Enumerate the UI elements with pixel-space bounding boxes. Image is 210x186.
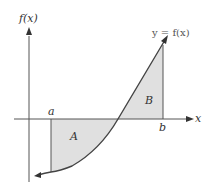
point-a-label: a (48, 105, 55, 118)
point-b-label: b (159, 121, 166, 134)
x-axis-arrow-icon (186, 116, 194, 122)
x-axis-label: x (195, 112, 202, 125)
region-b-label: B (144, 94, 153, 107)
region-a-shade (51, 119, 118, 172)
curve-label: y = f(x) (151, 27, 190, 38)
region-a-label: A (69, 130, 78, 143)
area-under-curve-diagram: f(x) x y = f(x) a b A B (0, 0, 210, 186)
curve-start-arrow-icon (34, 172, 41, 178)
y-axis-arrow-icon (26, 27, 32, 35)
y-axis-label: f(x) (18, 12, 38, 25)
diagram-svg: f(x) x y = f(x) a b A B (0, 0, 210, 186)
